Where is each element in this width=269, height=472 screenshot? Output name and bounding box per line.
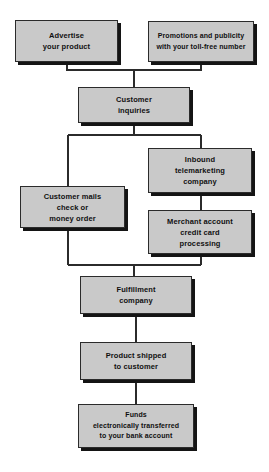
node-merchant-account: Merchant account credit card processing [148, 210, 252, 254]
flowchart-diagram: Advertise your product Promotions and pu… [0, 0, 269, 472]
edge-inquiries-split [68, 123, 201, 135]
node-product-shipped: Product shipped to customer [80, 342, 192, 380]
edge-promotions-to-inquiries [134, 62, 201, 70]
node-promotions: Promotions and publicity with your toll-… [148, 21, 254, 62]
node-fulfillment-label: Fulfillment company [113, 284, 158, 306]
node-advertise: Advertise your product [15, 20, 118, 62]
node-funds-transferred: Funds electronically transferred to your… [78, 404, 194, 448]
edge-advertise-to-inquiries [67, 62, 134, 70]
node-customer-inquiries-label: Customer inquiries [113, 94, 155, 116]
node-funds-transferred-label: Funds electronically transferred to your… [90, 410, 182, 442]
node-promotions-label: Promotions and publicity with your toll-… [154, 31, 249, 52]
node-inbound-telemarketing-label: Inbound telemarketing company [172, 154, 228, 187]
node-customer-inquiries: Customer inquiries [78, 87, 190, 123]
node-advertise-label: Advertise your product [40, 30, 93, 52]
node-fulfillment: Fulfillment company [80, 276, 192, 314]
node-inbound-telemarketing: Inbound telemarketing company [148, 148, 252, 193]
node-customer-mails: Customer mails check or money order [20, 186, 125, 228]
node-customer-mails-label: Customer mails check or money order [41, 191, 105, 224]
node-merchant-account-label: Merchant account credit card processing [164, 216, 236, 249]
node-product-shipped-label: Product shipped to customer [103, 350, 170, 372]
